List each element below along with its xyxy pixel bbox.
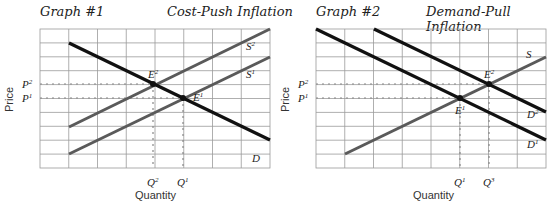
graph2-e1-point — [457, 95, 463, 101]
graph1-e2-point — [150, 81, 156, 87]
graph1-s1-label: S1 — [246, 68, 255, 80]
graph2-q1-label: Q1 — [454, 176, 465, 188]
graph2-s-curve — [345, 57, 546, 154]
graph1-d-curve — [69, 43, 270, 140]
graph2-p2-label: P2 — [297, 78, 309, 90]
graph2-e2-point — [486, 81, 492, 87]
graph2-y-axis-label: Price — [279, 87, 291, 112]
graph1-s2-label: S2 — [246, 40, 256, 52]
graph1-d-label: D — [251, 152, 260, 164]
graph1-p2-label: P2 — [21, 78, 33, 90]
graph1-y-axis-label: Price — [3, 87, 15, 112]
charts-canvas: S2 S1 D E2 E1 P2 P1 Q2 Q1 Quantity Price — [0, 0, 552, 204]
graph2-x-axis-label: Quantity — [413, 189, 454, 201]
graph2-s-label: S — [526, 48, 532, 60]
graph1-p1-label: P1 — [21, 92, 32, 104]
graph1-e1-label: E1 — [192, 91, 203, 103]
graph1-e2-label: E2 — [147, 68, 159, 80]
graph2-p1-label: P1 — [297, 92, 308, 104]
graph1-plot: S2 S1 D E2 E1 P2 P1 Q2 Q1 Quantity Price — [3, 29, 270, 201]
graph2-d2-label: D2 — [526, 108, 539, 120]
graph1-e1-point — [180, 95, 186, 101]
graph2-d1-label: D1 — [526, 138, 538, 150]
graph2-e2-label: E2 — [483, 68, 495, 80]
graph2-e1-label: E1 — [454, 104, 465, 116]
graph2-q3-label: Q3 — [483, 176, 495, 188]
graph1-x-axis-label: Quantity — [135, 189, 176, 201]
graph1-s1-curve — [69, 57, 270, 154]
graph2-plot: S D2 D1 E2 E1 P2 P1 Q1 Q3 Quantity Price — [279, 29, 546, 201]
graph1-q2-label: Q2 — [147, 176, 159, 188]
graph1-q1-label: Q1 — [177, 176, 188, 188]
